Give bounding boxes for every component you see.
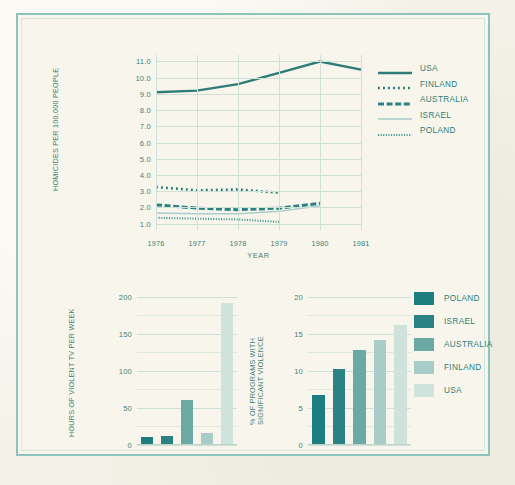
line-chart-y-tick: 9.0	[140, 89, 151, 98]
bar-australia[interactable]	[181, 400, 193, 445]
bar-right-y-tick: 5	[299, 403, 303, 412]
bar-left-y-tick: 50	[123, 403, 132, 412]
line-chart-gridline	[156, 110, 361, 111]
bar-right-baseline	[308, 444, 411, 445]
bar-right-minor-gridline	[308, 315, 411, 316]
line-chart-x-axis-label: YEAR	[156, 251, 361, 260]
line-chart-gridline	[156, 175, 361, 176]
line-legend-item-israel[interactable]: ISRAEL	[378, 108, 469, 124]
line-legend-swatch-icon	[378, 95, 412, 105]
bar-israel[interactable]	[333, 369, 346, 445]
bar-right-gridline	[308, 445, 411, 446]
line-chart-gridline	[156, 61, 361, 62]
bar-legend-label: POLAND	[444, 294, 480, 303]
bar-right-y-tick: 10	[294, 366, 303, 375]
bar-left-baseline	[137, 444, 237, 445]
line-chart-y-tick: 10.0	[135, 73, 151, 82]
line-chart-x-tick: 1981	[352, 239, 369, 248]
bar-australia[interactable]	[353, 350, 366, 445]
line-chart-vertical-gridline	[156, 55, 157, 230]
line-legend-item-finland[interactable]: FINLAND	[378, 77, 469, 93]
line-legend-label: USA	[420, 64, 438, 73]
bar-legend-item-poland[interactable]: POLAND	[414, 287, 493, 310]
line-chart-gridline	[156, 191, 361, 192]
line-chart-x-tick: 1977	[188, 239, 205, 248]
bar-legend-item-australia[interactable]: AUSTRALIA	[414, 333, 493, 356]
bar-legend-swatch-icon	[414, 384, 434, 397]
bar-right-gridline	[308, 297, 411, 298]
figure-frame: HOMICIDES PER 100,000 PEOPLE 1.02.03.04.…	[16, 13, 490, 456]
bar-left-gridline	[137, 445, 237, 446]
line-chart-y-tick: 11.0	[136, 57, 151, 66]
line-chart-y-tick: 4.0	[140, 170, 151, 179]
bar-right-y-tick: 20	[294, 292, 303, 301]
line-chart-x-tick: 1979	[270, 239, 287, 248]
bar-usa[interactable]	[394, 325, 407, 445]
line-legend-item-usa[interactable]: USA	[378, 61, 469, 77]
bar-right-plot-area: 05101520	[308, 293, 411, 445]
bar-legend-item-finland[interactable]: FINLAND	[414, 356, 493, 379]
bar-left-gridline	[137, 297, 237, 298]
line-legend-label: FINLAND	[420, 80, 457, 89]
bar-right-legend: POLANDISRAELAUSTRALIAFINLANDUSA	[414, 287, 493, 402]
bar-left-y-tick: 150	[119, 329, 132, 338]
bar-left-y-tick: 100	[119, 366, 132, 375]
line-chart-gridline	[156, 94, 361, 95]
line-legend-item-poland[interactable]: POLAND	[378, 123, 469, 139]
line-series-poland	[156, 218, 279, 222]
bar-legend-swatch-icon	[414, 338, 434, 351]
bar-legend-swatch-icon	[414, 315, 434, 328]
line-chart-y-tick: 3.0	[140, 187, 151, 196]
line-legend-swatch-icon	[378, 79, 412, 89]
line-chart-gridline	[156, 159, 361, 160]
bar-left-plot-area: 050100150200	[137, 293, 237, 445]
line-chart-x-tick: 1978	[229, 239, 246, 248]
line-legend-label: POLAND	[420, 126, 456, 135]
bar-legend-swatch-icon	[414, 292, 434, 305]
line-chart-y-tick: 6.0	[140, 138, 151, 147]
bar-right-y-axis-label-line2: SIGNIFICANT VIOLENCE	[256, 336, 265, 425]
line-chart-y-tick: 2.0	[140, 203, 151, 212]
bar-legend-item-israel[interactable]: ISRAEL	[414, 310, 493, 333]
line-legend-swatch-icon	[378, 110, 412, 120]
line-chart-gridline	[156, 126, 361, 127]
line-chart-y-tick: 5.0	[140, 154, 151, 163]
line-chart-y-tick: 7.0	[140, 122, 151, 131]
bar-legend-label: ISRAEL	[444, 317, 475, 326]
bar-legend-item-usa[interactable]: USA	[414, 379, 493, 402]
bar-finland[interactable]	[374, 340, 387, 445]
line-chart-vertical-gridline	[320, 55, 321, 230]
line-legend-label: ISRAEL	[420, 111, 451, 120]
bar-legend-label: FINLAND	[444, 363, 481, 372]
bar-legend-swatch-icon	[414, 361, 434, 374]
line-legend-swatch-icon	[378, 64, 412, 74]
violent-tv-bar-chart: HOURS OF VIOLENT TV PER WEEK 05010015020…	[53, 277, 248, 477]
line-legend-item-australia[interactable]: AUSTRALIA	[378, 92, 469, 108]
line-chart-vertical-gridline	[361, 55, 362, 230]
line-chart-gridline	[156, 224, 361, 225]
bar-legend-label: USA	[444, 386, 462, 395]
line-chart-y-tick: 8.0	[140, 106, 151, 115]
line-chart-gridline	[156, 78, 361, 79]
line-chart-y-axis-label: HOMICIDES PER 100,000 PEOPLE	[51, 41, 60, 191]
homicide-line-chart: HOMICIDES PER 100,000 PEOPLE 1.02.03.04.…	[38, 33, 478, 258]
line-chart-gridline	[156, 207, 361, 208]
line-chart-x-tick: 1980	[311, 239, 328, 248]
line-chart-vertical-gridline	[279, 55, 280, 230]
violent-programs-bar-chart: % OF PROGRAMS WITH SIGNIFICANT VIOLENCE …	[240, 277, 420, 477]
line-chart-vertical-gridline	[197, 55, 198, 230]
line-chart-vertical-gridline	[238, 55, 239, 230]
line-chart-gridline	[156, 143, 361, 144]
line-chart-plot-area: 1.02.03.04.05.06.07.08.09.010.011.019761…	[156, 55, 361, 230]
bar-poland[interactable]	[312, 395, 325, 445]
bar-legend-label: AUSTRALIA	[444, 340, 493, 349]
bar-right-y-tick: 15	[294, 329, 303, 338]
line-legend-swatch-icon	[378, 126, 412, 136]
line-chart-y-tick: 1.0	[140, 219, 151, 228]
line-chart-legend: USAFINLANDAUSTRALIAISRAELPOLAND	[378, 61, 469, 139]
bar-left-y-tick: 200	[119, 292, 132, 301]
bar-right-y-tick: 0	[299, 441, 303, 450]
bar-usa[interactable]	[221, 303, 233, 445]
line-legend-label: AUSTRALIA	[420, 95, 469, 104]
bar-left-y-tick: 0	[128, 441, 132, 450]
